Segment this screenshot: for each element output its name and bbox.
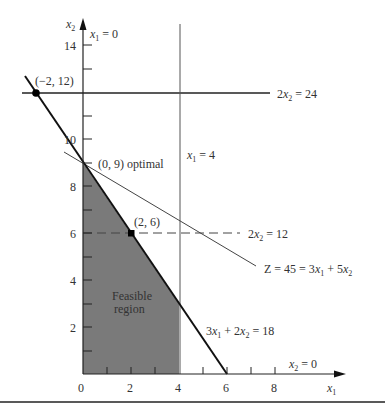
x-tick-8: 8 bbox=[271, 381, 277, 395]
label-point-2-6: (2, 6) bbox=[134, 215, 160, 229]
label-x2-eq-0: x2 = 0 bbox=[288, 357, 317, 373]
label-x1-eq-4: x1 = 4 bbox=[186, 148, 215, 164]
label-x1-eq-0: x1 = 0 bbox=[89, 27, 118, 43]
feasible-region bbox=[83, 163, 179, 374]
x-tick-4: 4 bbox=[175, 381, 181, 395]
label-objective: Z = 45 = 3x1 + 5x2 bbox=[264, 262, 352, 278]
lp-graph: 0 2 4 6 8 2 4 6 8 10 14 x2 x1 x1 = 0 2x2… bbox=[0, 0, 385, 412]
y-tick-8: 8 bbox=[70, 180, 76, 194]
y-tick-10: 10 bbox=[64, 133, 76, 147]
x-tick-0: 0 bbox=[78, 381, 84, 395]
label-2x2-eq-12: 2x2 = 12 bbox=[248, 227, 288, 243]
y-tick-14: 14 bbox=[64, 39, 76, 53]
label-point-0-9-optimal: (0, 9) optimal bbox=[98, 157, 164, 171]
y-axis-label: x2 bbox=[65, 17, 75, 33]
point-2-6-icon bbox=[128, 230, 135, 237]
label-2x2-eq-24: 2x2 = 24 bbox=[277, 87, 317, 103]
y-tick-6: 6 bbox=[70, 227, 76, 241]
y-tick-2: 2 bbox=[70, 321, 76, 335]
y-axis-arrow-icon bbox=[80, 18, 87, 30]
point-neg2-12-icon bbox=[32, 89, 40, 97]
feasible-region-label-line1: Feasible bbox=[112, 289, 152, 303]
label-point-neg2-12: (−2, 12) bbox=[35, 74, 74, 88]
x-tick-2: 2 bbox=[127, 381, 133, 395]
x-axis-arrow-icon bbox=[334, 371, 346, 378]
feasible-region-label-line2: region bbox=[114, 302, 145, 316]
x-axis-label: x1 bbox=[326, 381, 336, 397]
y-tick-4: 4 bbox=[70, 274, 76, 288]
label-3x1-2x2-18: 3x1 + 2x2 = 18 bbox=[206, 324, 274, 340]
x-tick-6: 6 bbox=[223, 381, 229, 395]
